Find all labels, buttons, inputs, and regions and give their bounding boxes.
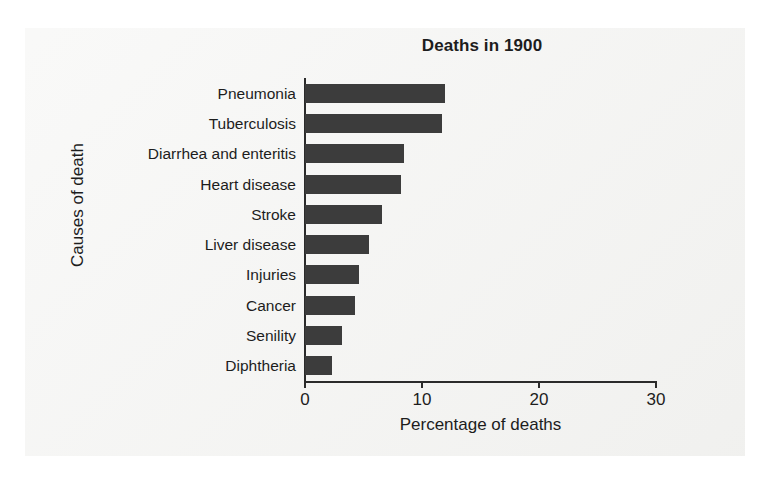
x-tick-30 [655, 381, 657, 388]
bar-row: Pneumonia [305, 84, 445, 103]
figure-page: Deaths in 1900 Causes of death 0102030 P… [0, 0, 771, 484]
chart-title: Deaths in 1900 [304, 36, 660, 56]
bar-row: Diarrhea and enteritis [305, 144, 404, 163]
bar-row: Tuberculosis [305, 114, 442, 133]
y-tick-label-pneumonia: Pneumonia [218, 85, 296, 103]
x-tick-label-0: 0 [275, 390, 335, 410]
x-tick-20 [538, 381, 540, 388]
x-tick-label-30: 30 [626, 390, 686, 410]
bar-injuries [305, 265, 359, 284]
y-tick-label-heart-disease: Heart disease [200, 176, 296, 194]
y-tick-label-senility: Senility [246, 327, 296, 345]
bar-row: Cancer [305, 296, 355, 315]
x-tick-label-10: 10 [392, 390, 452, 410]
y-tick-label-cancer: Cancer [246, 297, 296, 315]
bar-row: Diphtheria [305, 356, 332, 375]
x-tick-10 [421, 381, 423, 388]
y-axis-title: Causes of death [68, 115, 88, 295]
y-tick-label-diphtheria: Diphtheria [225, 357, 296, 375]
y-tick-label-stroke: Stroke [251, 206, 296, 224]
x-axis-line [304, 381, 657, 383]
bar-diphtheria [305, 356, 332, 375]
y-tick-label-tuberculosis: Tuberculosis [209, 115, 296, 133]
bar-row: Heart disease [305, 175, 401, 194]
y-tick-label-injuries: Injuries [246, 266, 296, 284]
bar-pneumonia [305, 84, 445, 103]
bar-tuberculosis [305, 114, 442, 133]
bar-row: Senility [305, 326, 342, 345]
x-tick-0 [304, 381, 306, 388]
y-tick-label-liver-disease: Liver disease [205, 236, 296, 254]
bar-senility [305, 326, 342, 345]
bar-row: Injuries [305, 265, 359, 284]
bar-heart-disease [305, 175, 401, 194]
bar-diarrhea-and-enteritis [305, 144, 404, 163]
x-axis-title: Percentage of deaths [304, 415, 657, 435]
bar-stroke [305, 205, 382, 224]
x-tick-label-20: 20 [509, 390, 569, 410]
bar-row: Stroke [305, 205, 382, 224]
y-tick-label-diarrhea-and-enteritis: Diarrhea and enteritis [148, 145, 296, 163]
bar-liver-disease [305, 235, 369, 254]
plot-area: 0102030 PneumoniaTuberculosisDiarrhea an… [304, 78, 656, 381]
bar-row: Liver disease [305, 235, 369, 254]
bar-cancer [305, 296, 355, 315]
